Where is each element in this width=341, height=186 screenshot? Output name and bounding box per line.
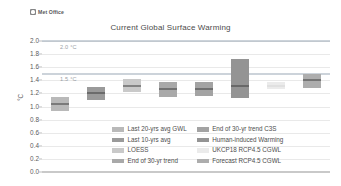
gridline [42,67,330,68]
bar-center-line [303,80,322,81]
bar-center-line [123,86,142,87]
legend-item[interactable]: UKCP18 RCP4.5 CGWL [197,145,284,156]
legend-label: Human-induced Warming [212,137,283,143]
y-axis-tick-mark [39,132,42,133]
chart-title: Current Global Surface Warming [0,23,341,32]
y-axis-tick-mark [39,172,42,173]
legend-label: End of 30-yr trend C3S [212,126,276,132]
y-axis-tick-mark [39,119,42,120]
bar-3 [123,79,142,92]
legend-label: LOESS [128,147,149,153]
y-axis-tick-mark [39,67,42,68]
legend-column-right: End of 30-yr trend C3SHuman-induced Warm… [197,124,284,166]
legend-swatch [112,148,124,153]
gridline [42,93,330,94]
legend-item[interactable]: Forecast RCP4.5 CGWL [197,156,284,167]
y-axis-tick-mark [39,80,42,81]
bar-6 [231,59,250,98]
legend-column-left: Last 20-yrs avg GWLLast 10-yrs avgLOESSE… [112,124,187,166]
y-axis-tick-mark [39,54,42,55]
met-office-logo: Met Office [30,9,64,15]
legend-item[interactable]: LOESS [112,145,187,156]
gridline [42,172,330,173]
legend-label: Forecast RCP4.5 CGWL [212,158,281,164]
gridline [42,80,330,81]
y-axis-tick-mark [39,145,42,146]
bar-1 [51,97,70,111]
reference-line-label: 2.0 °C [60,44,77,50]
gridline [42,120,330,121]
chart-legend: Last 20-yrs avg GWLLast 10-yrs avgLOESSE… [112,124,283,166]
gridline [42,107,330,108]
y-axis-tick-mark [39,93,42,94]
legend-swatch [197,127,209,132]
y-axis-tick-mark [39,106,42,107]
legend-item[interactable]: End of 30-yr trend [112,156,187,167]
bar-center-line [159,89,178,90]
y-axis-tick-mark [39,158,42,159]
legend-item[interactable]: End of 30-yr trend C3S [197,124,284,135]
bar-center-line [195,89,214,90]
y-axis-title: °C [17,94,24,101]
legend-swatch [112,138,124,143]
chart-page: Met Office Current Global Surface Warmin… [0,0,341,186]
bar-center-line [231,85,250,86]
legend-item[interactable]: Last 20-yrs avg GWL [112,124,187,135]
legend-label: End of 30-yr trend [128,158,178,164]
bar-2 [87,87,106,100]
reference-line [42,73,330,74]
bar-4 [159,82,178,97]
bar-center-line [267,86,286,87]
reference-line-label: 1.5 °C [60,76,77,82]
legend-label: Last 10-yrs avg [128,137,171,143]
brand-name: Met Office [38,9,64,15]
legend-item[interactable]: Human-induced Warming [197,135,284,146]
legend-swatch [112,159,124,164]
bar-8 [303,74,322,88]
bar-5 [195,82,214,96]
legend-label: Last 20-yrs avg GWL [128,126,187,132]
gridline [42,54,330,55]
legend-item[interactable]: Last 10-yrs avg [112,135,187,146]
bar-center-line [51,103,70,104]
legend-swatch [197,138,209,143]
bar-7 [267,82,286,89]
reference-line [42,41,330,42]
met-office-logo-icon [30,9,36,15]
legend-label: UKCP18 RCP4.5 CGWL [212,147,281,153]
legend-swatch [112,127,124,132]
legend-swatch [197,148,209,153]
legend-swatch [197,159,209,164]
bar-center-line [87,93,106,94]
